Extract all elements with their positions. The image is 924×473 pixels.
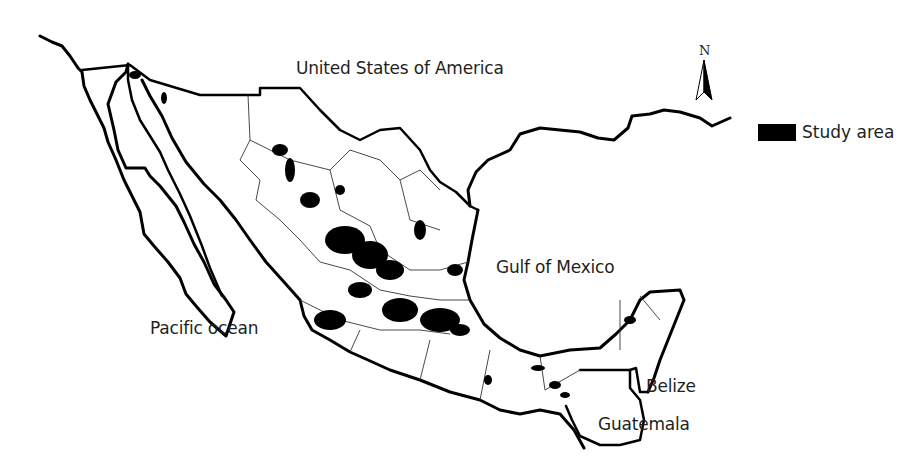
study-area-swatch bbox=[758, 124, 796, 141]
label-guatemala: Guatemala bbox=[598, 414, 690, 434]
study-area-patches bbox=[129, 71, 636, 398]
state-borders bbox=[240, 95, 660, 400]
gulf-coast-mexico bbox=[464, 210, 684, 392]
label-gulf-of-mexico: Gulf of Mexico bbox=[496, 257, 614, 277]
us-border bbox=[82, 65, 478, 210]
label-pacific-ocean: Pacific ocean bbox=[150, 318, 258, 338]
baja-gulf-coast bbox=[128, 64, 222, 296]
us-gulf-coast bbox=[468, 110, 730, 206]
legend-label-study-area: Study area bbox=[802, 122, 894, 142]
north-arrow-icon bbox=[696, 60, 712, 100]
legend: Study area bbox=[758, 122, 894, 142]
label-belize: Belize bbox=[646, 376, 696, 396]
north-letter: N bbox=[699, 43, 710, 58]
label-usa: United States of America bbox=[296, 58, 504, 78]
map-figure: N United States of America Gulf of Mexic… bbox=[0, 0, 924, 473]
